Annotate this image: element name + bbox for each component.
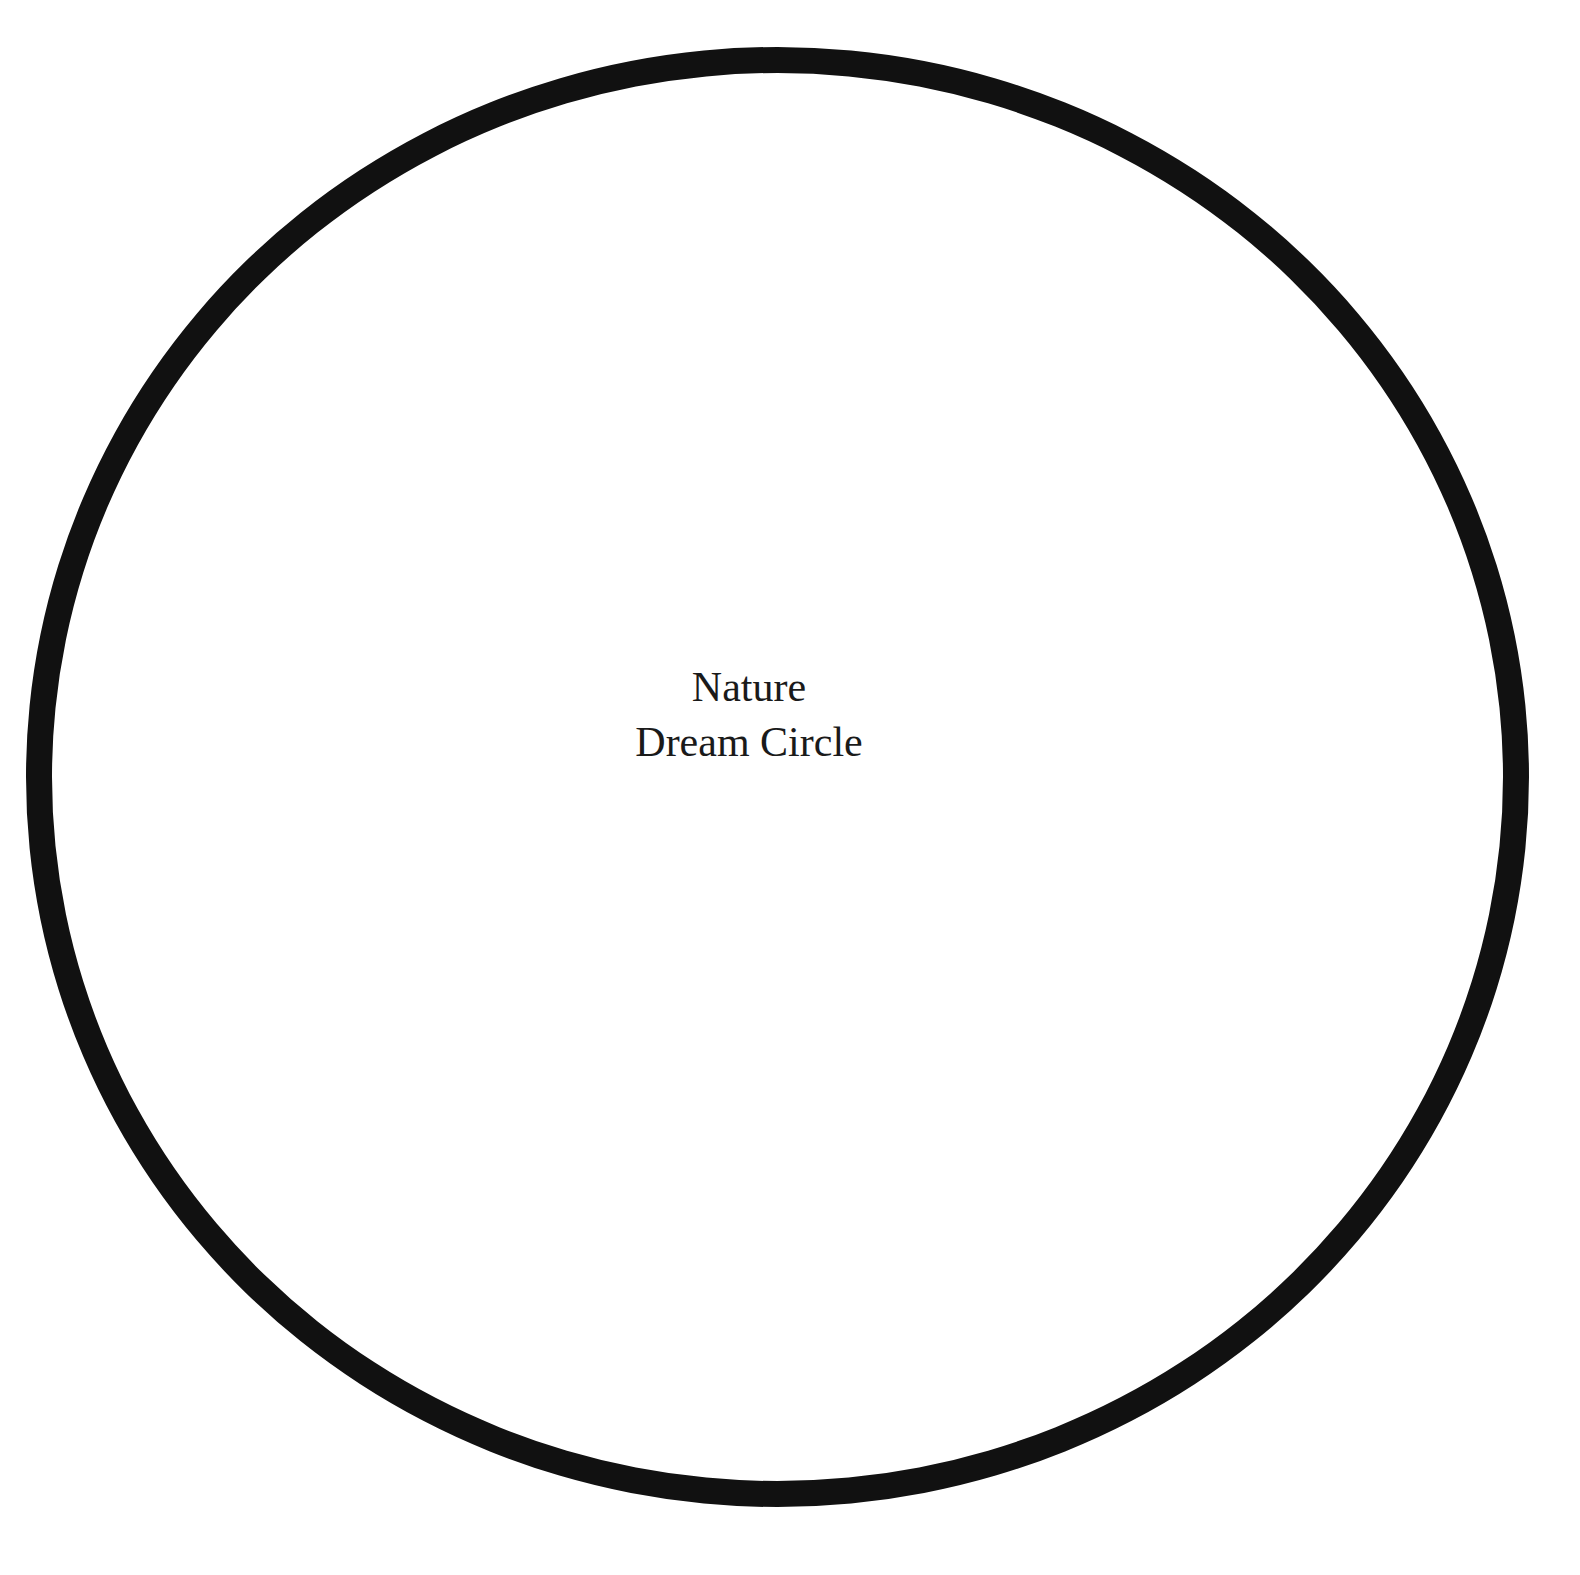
- circle-title-line-2: Dream Circle: [0, 715, 1498, 770]
- circle-title: Nature Dream Circle: [0, 660, 1498, 770]
- circle-title-line-1: Nature: [0, 660, 1498, 715]
- dream-circle-outline: [26, 47, 1529, 1507]
